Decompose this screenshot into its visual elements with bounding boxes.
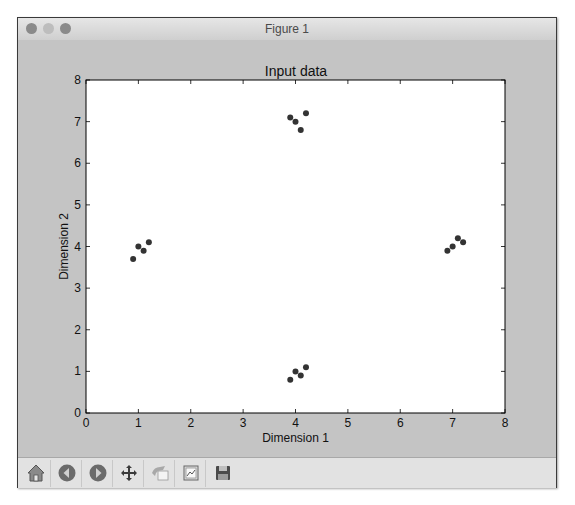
x-tick-label: 4 — [292, 416, 299, 430]
y-tick-label: 7 — [74, 115, 81, 129]
save-icon — [213, 463, 233, 483]
subplots-button[interactable] — [177, 460, 206, 487]
y-tick-label: 1 — [74, 364, 81, 378]
data-point — [298, 127, 304, 133]
x-tick-label: 8 — [502, 416, 509, 430]
data-point — [146, 239, 152, 245]
y-tick-label: 3 — [74, 281, 81, 295]
figure-canvas[interactable]: Input data 012345678012345678Dimension 1… — [18, 40, 556, 457]
navigation-toolbar — [18, 457, 556, 488]
y-tick-label: 5 — [74, 198, 81, 212]
move-icon — [119, 463, 139, 483]
x-tick-label: 2 — [187, 416, 194, 430]
scatter-plot[interactable]: 012345678012345678Dimension 1Dimension 2 — [18, 40, 556, 457]
data-point — [135, 244, 141, 250]
pan-button[interactable] — [115, 460, 144, 487]
data-point — [287, 377, 293, 383]
x-tick-label: 6 — [397, 416, 404, 430]
forward-button[interactable] — [84, 460, 113, 487]
data-point — [130, 256, 136, 262]
y-tick-label: 8 — [74, 73, 81, 87]
plot-area — [86, 80, 505, 413]
home-icon — [26, 463, 46, 483]
y-tick-label: 2 — [74, 323, 81, 337]
arrow-left-icon — [57, 463, 77, 483]
data-point — [303, 364, 309, 370]
data-point — [455, 235, 461, 241]
data-point — [303, 110, 309, 116]
zoom-button[interactable] — [146, 460, 175, 487]
y-tick-label: 0 — [74, 406, 81, 420]
title-bar[interactable]: Figure 1 — [18, 18, 556, 41]
figure-window: Figure 1 Input data 012345678012345678Di… — [17, 17, 557, 488]
x-tick-label: 3 — [240, 416, 247, 430]
window-title: Figure 1 — [18, 22, 556, 36]
arrow-right-icon — [88, 463, 108, 483]
data-point — [141, 248, 147, 254]
x-axis-label: Dimension 1 — [262, 431, 329, 445]
back-button[interactable] — [53, 460, 82, 487]
data-point — [460, 239, 466, 245]
y-axis-label: Dimension 2 — [57, 213, 71, 280]
data-point — [444, 248, 450, 254]
x-tick-label: 5 — [345, 416, 352, 430]
data-point — [293, 119, 299, 125]
x-tick-label: 7 — [449, 416, 456, 430]
zoom-rect-icon — [150, 463, 170, 483]
data-point — [293, 368, 299, 374]
data-point — [450, 244, 456, 250]
y-tick-label: 6 — [74, 156, 81, 170]
subplots-icon — [181, 463, 201, 483]
x-tick-label: 0 — [83, 416, 90, 430]
data-point — [287, 114, 293, 120]
home-button[interactable] — [22, 460, 51, 487]
save-button[interactable] — [208, 460, 237, 487]
y-tick-label: 4 — [74, 240, 81, 254]
data-point — [298, 373, 304, 379]
x-tick-label: 1 — [135, 416, 142, 430]
